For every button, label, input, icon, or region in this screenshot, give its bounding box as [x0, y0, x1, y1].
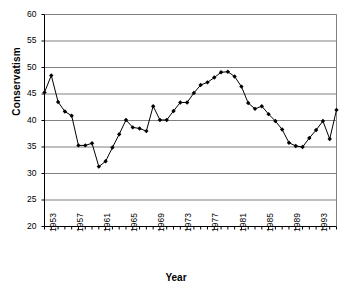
plot-area	[0, 0, 352, 291]
x-tick-label: 1957	[76, 213, 85, 232]
y-tick-label: 20	[15, 222, 37, 231]
x-tick-label: 1981	[239, 213, 248, 232]
data-point	[90, 141, 94, 145]
x-tick-label: 1969	[157, 213, 166, 232]
series-line-conservatism	[45, 72, 337, 167]
x-tick-label: 1985	[266, 213, 275, 232]
data-point	[287, 141, 291, 145]
x-tick-label: 1953	[49, 213, 58, 232]
y-tick-label: 30	[15, 169, 37, 178]
data-point	[144, 129, 148, 133]
y-tick-label: 40	[15, 116, 37, 125]
x-tick-label: 1977	[211, 213, 220, 232]
y-tick-label: 45	[15, 89, 37, 98]
y-tick-label: 60	[15, 10, 37, 19]
x-tick-label: 1961	[103, 213, 112, 232]
x-tick-label: 1965	[130, 213, 139, 232]
data-point	[158, 118, 162, 122]
y-tick-label: 55	[15, 36, 37, 45]
y-tick-label: 25	[15, 195, 37, 204]
conservatism-line-chart: Conservatism Year 202530354045505560 195…	[0, 0, 352, 291]
y-tick-label: 35	[15, 142, 37, 151]
data-point	[151, 104, 155, 108]
data-point	[110, 145, 114, 149]
data-point	[328, 137, 332, 141]
data-point	[334, 108, 338, 112]
y-tick-label: 50	[15, 63, 37, 72]
data-point	[49, 73, 53, 77]
x-tick-label: 1989	[293, 213, 302, 232]
data-point	[137, 126, 141, 130]
x-axis-title: Year	[0, 272, 352, 283]
x-tick-label: 1973	[184, 213, 193, 232]
x-tick-label: 1993	[320, 213, 329, 232]
gridlines	[45, 15, 337, 201]
series-markers-conservatism	[42, 70, 338, 169]
data-point	[117, 132, 121, 136]
